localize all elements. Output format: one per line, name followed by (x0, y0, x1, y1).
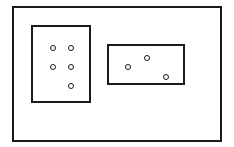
element-circle (51, 65, 56, 70)
set-a (32, 26, 90, 102)
set-a-rectangle (32, 26, 90, 102)
set-b (108, 45, 184, 84)
element-circle (51, 46, 56, 51)
element-circle (126, 65, 131, 70)
universe-rectangle (13, 7, 221, 141)
set-diagram (0, 0, 234, 147)
element-circle (145, 56, 150, 61)
set-b-rectangle (108, 45, 184, 84)
element-circle (69, 84, 74, 89)
element-circle (69, 46, 74, 51)
element-circle (164, 75, 169, 80)
element-circle (69, 65, 74, 70)
